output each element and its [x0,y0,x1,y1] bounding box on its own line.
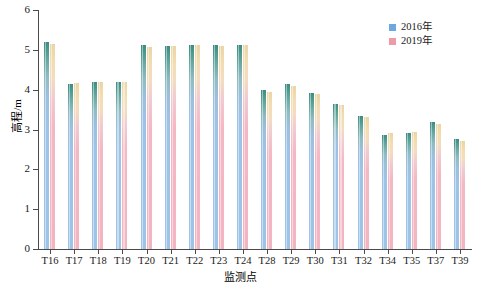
bar-2019 [147,47,152,249]
bar-highlight [262,90,263,249]
bar-2019 [50,44,55,249]
bar-group [141,10,153,249]
x-tick-mark [339,250,340,254]
bar-highlight [99,82,100,249]
bar-highlight [268,92,269,249]
bar-2016 [141,45,146,249]
bar-highlight [286,84,287,249]
y-tick-label: 2 [14,163,30,174]
bar-highlight [148,47,149,249]
bar-2016 [285,84,290,249]
bar-2019 [436,124,441,249]
bar-2016 [261,90,266,249]
y-tick-label: 5 [14,44,30,55]
x-tick-mark [171,250,172,254]
bar-highlight [310,93,311,249]
bar-highlight [75,83,76,249]
bar-2019 [219,46,224,249]
x-tick-mark [388,250,389,254]
bar-highlight [69,84,70,249]
bar-2016 [309,93,314,249]
bar-highlight [123,82,124,249]
bar-2016 [430,122,435,249]
x-axis-title: 监测点 [0,268,480,284]
x-tick-mark [267,250,268,254]
bar-group [116,10,128,249]
bar-group [285,10,297,249]
x-tick-mark [315,250,316,254]
legend-label-2016: 2016年 [401,20,432,34]
bar-group [213,10,225,249]
bar-2019 [267,92,272,249]
bar-group [165,10,177,249]
bar-highlight [407,133,408,249]
bar-group [44,10,56,249]
legend-item-2019: 2019年 [389,34,432,48]
bar-group [454,10,466,249]
bar-group [333,10,345,249]
bar-group [358,10,370,249]
legend-swatch-2016-icon [389,24,396,31]
bar-2019 [122,82,127,249]
bar-highlight [359,116,360,249]
bar-highlight [431,122,432,249]
bar-2016 [92,82,97,249]
x-tick-mark [412,250,413,254]
bar-group [309,10,321,249]
y-tick-label: 6 [14,4,30,15]
bar-highlight [190,45,191,249]
y-axis-title: 高程/m [8,86,24,146]
bar-2019 [291,86,296,249]
bar-highlight [437,124,438,249]
bar-group [68,10,80,249]
bar-2019 [339,105,344,249]
bar-highlight [316,94,317,249]
bar-2019 [412,132,417,250]
bar-highlight [214,45,215,249]
bar-2019 [243,45,248,249]
x-tick-mark [147,250,148,254]
x-tick-mark [50,250,51,254]
bar-2016 [454,139,459,249]
legend-item-2016: 2016年 [389,20,432,34]
bar-2016 [358,116,363,249]
bar-2016 [213,45,218,249]
bar-highlight [461,141,462,249]
x-axis-line [38,249,472,250]
bar-group [92,10,104,249]
bar-2016 [237,45,242,249]
x-tick-mark [364,250,365,254]
bar-2016 [406,133,411,249]
legend-swatch-2019-icon [389,38,396,45]
bar-group [261,10,273,249]
bar-highlight [238,45,239,249]
x-tick-mark [243,250,244,254]
x-tick-mark [291,250,292,254]
bar-2019 [171,46,176,249]
bar-group [189,10,201,249]
bar-highlight [413,132,414,250]
bar-highlight [292,86,293,249]
bar-highlight [334,104,335,249]
x-tick-mark [436,250,437,254]
bar-highlight [220,46,221,249]
bar-2016 [165,46,170,249]
x-tick-mark [98,250,99,254]
legend-label-2019: 2019年 [401,34,432,48]
bar-highlight [455,139,456,249]
bar-highlight [196,45,197,249]
bar-2019 [388,133,393,249]
bar-highlight [117,82,118,249]
bar-highlight [142,45,143,249]
bar-highlight [383,135,384,249]
bar-highlight [45,42,46,249]
bar-2016 [44,42,49,249]
bar-2016 [68,84,73,249]
chart-legend: 2016年 2019年 [389,20,432,48]
x-tick-mark [460,250,461,254]
bar-2016 [333,104,338,249]
bar-highlight [172,46,173,249]
y-tick-label: 1 [14,203,30,214]
bar-2019 [364,117,369,249]
